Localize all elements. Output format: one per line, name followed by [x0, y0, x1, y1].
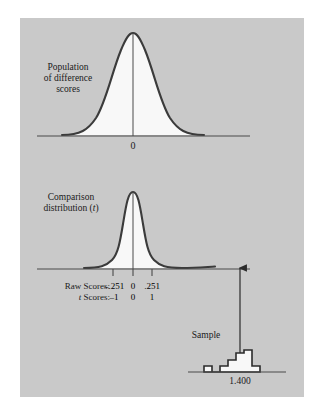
population-label-line3: scores [22, 84, 114, 95]
sample-histogram-outline [204, 350, 260, 372]
comparison-label-line2: distribution (t) [22, 203, 120, 214]
comparison-label: Comparison distribution (t) [22, 192, 120, 214]
population-label: Population of difference scores [22, 62, 114, 96]
population-label-line2: of difference [22, 73, 114, 84]
comparison-label-line1: Comparison [22, 192, 120, 203]
sample-value-label: 1.400 [210, 376, 270, 387]
figure-container: Population of difference scores 0 Compar… [0, 0, 324, 413]
sample-histogram-group [188, 350, 286, 372]
comparison-label-suffix: ) [95, 203, 98, 213]
comparison-label-prefix: distribution ( [43, 203, 92, 213]
population-label-line1: Population [22, 62, 114, 73]
raw-scores-row-label: Raw Scores: [36, 281, 110, 291]
t-score-value-2: 1 [139, 292, 165, 302]
sample-label: Sample [176, 330, 236, 341]
population-zero-tick-label: 0 [118, 140, 148, 152]
raw-score-value-2: .251 [139, 281, 165, 291]
t-scores-row-label: t Scores: [36, 292, 110, 302]
